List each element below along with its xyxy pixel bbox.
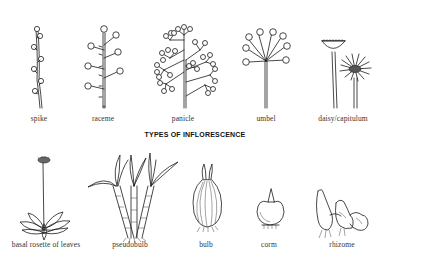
illustration-canvas [0, 0, 425, 257]
label-umbel: umbel [256, 114, 275, 123]
spike-icon [31, 26, 43, 108]
label-spike: spike [31, 114, 47, 123]
pseudobulb-icon [88, 153, 178, 243]
raceme-icon [85, 26, 123, 108]
rhizome-icon [317, 190, 369, 238]
corm-icon [257, 189, 284, 229]
section-title: TYPES OF INFLORESCENCE [145, 131, 246, 138]
label-bulb: bulb [199, 240, 213, 249]
label-corm: corm [261, 240, 277, 249]
label-panicle: panicle [172, 114, 194, 123]
daisy-capitulum-icon [322, 39, 371, 108]
label-daisy-capitulum: daisy/capitulum [318, 114, 367, 123]
umbel-icon [243, 29, 291, 108]
label-rhizome: rhizome [329, 240, 354, 249]
label-raceme: raceme [92, 114, 114, 123]
label-basal-rosette: basal rosette of leaves [12, 240, 80, 249]
bulb-icon [193, 164, 222, 232]
basal-rosette-icon [20, 156, 70, 240]
label-pseudobulb: pseudobulb [112, 240, 148, 249]
panicle-icon [155, 25, 218, 109]
